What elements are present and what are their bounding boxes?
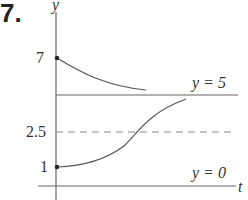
- initial-point-1: [55, 165, 59, 169]
- problem-number: 7.: [0, 0, 22, 28]
- y0-line-label: y = 0: [190, 164, 226, 182]
- y-axis-label: y: [50, 0, 60, 14]
- upper-solution-curve: [57, 58, 146, 90]
- tick-1: 1: [40, 158, 48, 175]
- y5-line-label: y = 5: [190, 74, 226, 92]
- initial-point-7: [55, 56, 59, 60]
- tick-2-5: 2.5: [26, 123, 46, 140]
- t-axis-label: t: [238, 178, 243, 195]
- lower-solution-curve: [57, 99, 186, 167]
- tick-7: 7: [36, 49, 44, 66]
- solution-curves-figure: 7. y t y = 0 y = 5 7 2.5 1: [0, 0, 248, 200]
